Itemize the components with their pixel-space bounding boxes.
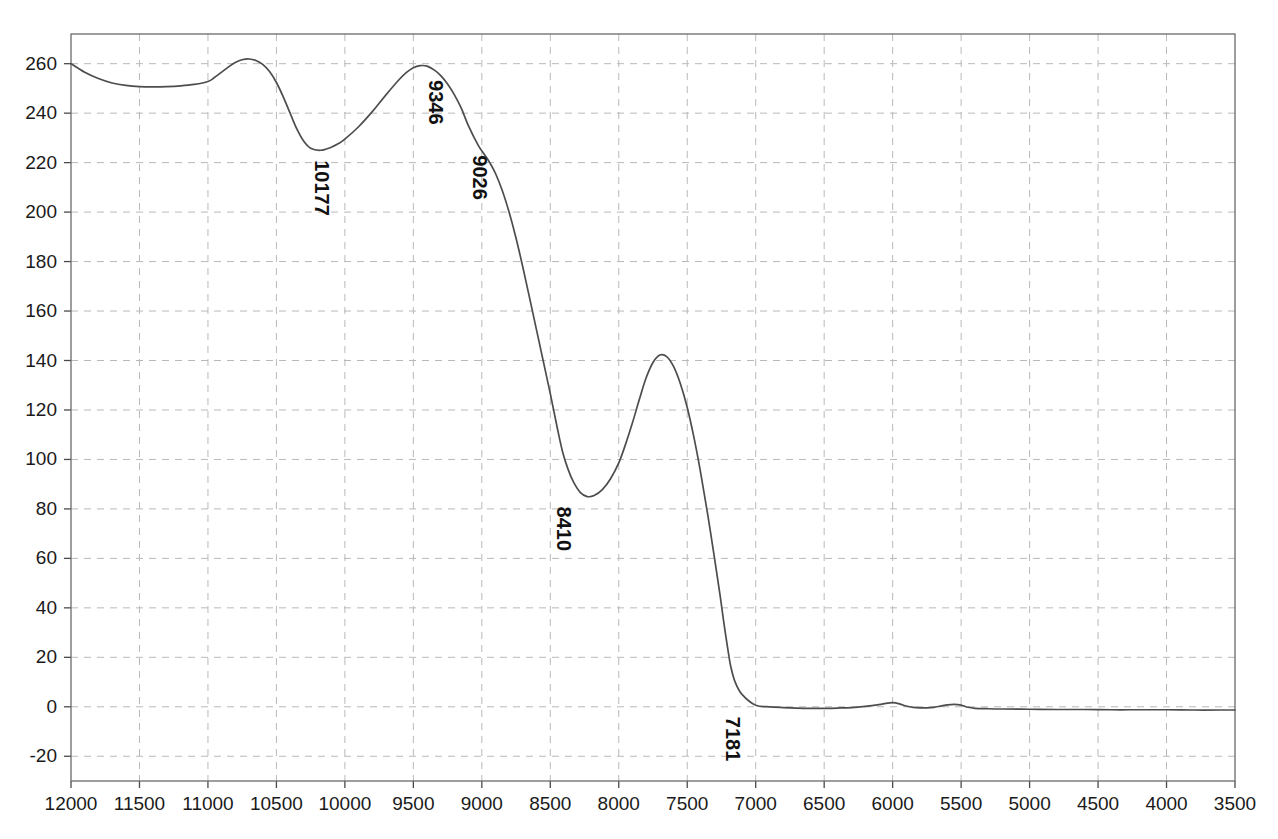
spectrum-line [71,59,1235,710]
spectrum-chart: 260240220200180160140120100806040200-20 … [0,0,1278,839]
x-tick-label: 7500 [666,793,708,814]
y-tick-label: 80 [36,498,57,519]
peak-annotations: 101779346902684107181 [311,80,743,761]
y-tick-label: 220 [25,152,57,173]
x-tick-label: 9500 [392,793,434,814]
x-tick-label: 6500 [803,793,845,814]
y-axis-tick-labels: 260240220200180160140120100806040200-20 [25,53,57,767]
x-tick-label: 12000 [45,793,98,814]
x-tick-label: 8000 [598,793,640,814]
y-tick-label: 0 [46,696,57,717]
x-tick-label: 11000 [182,793,233,814]
axis-ticks [64,64,1235,788]
y-tick-label: 100 [25,448,57,469]
y-tick-label: 60 [36,547,57,568]
peak-label-9346: 9346 [425,80,447,125]
grid-lines [71,34,1235,781]
plot-frame [71,34,1235,781]
peak-label-9026: 9026 [469,155,491,200]
x-tick-label: 7000 [735,793,777,814]
peak-label-7181: 7181 [722,717,744,762]
x-tick-label: 4500 [1077,793,1119,814]
y-tick-label: 140 [25,350,57,371]
x-tick-label: 6000 [872,793,914,814]
x-tick-label: 5000 [1008,793,1050,814]
x-tick-label: 3500 [1214,793,1256,814]
x-tick-label: 9000 [461,793,503,814]
chart-canvas: 260240220200180160140120100806040200-20 … [0,0,1278,839]
y-tick-label: 120 [25,399,57,420]
y-tick-label: 180 [25,251,57,272]
x-axis-tick-labels: 1200011500110001050010000950090008500800… [45,793,1257,814]
y-tick-label: -20 [30,745,57,766]
x-tick-label: 4000 [1145,793,1187,814]
y-tick-label: 260 [25,53,57,74]
y-tick-label: 240 [25,102,57,123]
x-tick-label: 8500 [529,793,571,814]
y-tick-label: 200 [25,201,57,222]
y-tick-label: 20 [36,646,57,667]
x-tick-label: 10000 [318,793,371,814]
y-tick-label: 40 [36,597,57,618]
peak-label-10177: 10177 [311,160,333,216]
y-tick-label: 160 [25,300,57,321]
x-tick-label: 10500 [250,793,303,814]
peak-label-8410: 8410 [553,507,575,552]
x-tick-label: 11500 [114,793,165,814]
x-tick-label: 5500 [940,793,982,814]
